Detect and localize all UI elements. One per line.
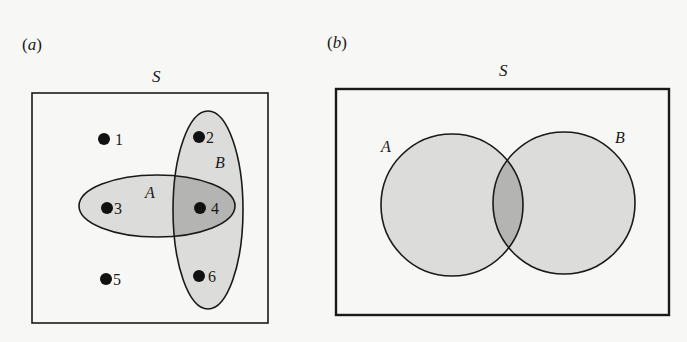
point-label: 3 [114, 200, 122, 217]
point-label: 2 [206, 129, 214, 146]
point-label: 1 [115, 131, 123, 148]
panel-a: (a) S A B 1 2 3 4 5 6 [22, 35, 268, 323]
panel-a-universe-label: S [152, 67, 161, 86]
point-label: 6 [208, 268, 216, 285]
venn-diagram-figure: (a) S A B 1 2 3 4 5 6 [0, 0, 687, 342]
set-b-label-b: B [615, 129, 625, 146]
point-dot [100, 273, 112, 285]
panel-b: (b) S A B [327, 33, 669, 315]
point-5: 5 [100, 271, 121, 288]
panel-b-universe-label: S [499, 61, 508, 80]
point-dot [98, 133, 110, 145]
point-dot [193, 131, 205, 143]
panel-b-label: (b) [327, 33, 347, 52]
point-dot [101, 202, 113, 214]
point-label: 4 [211, 200, 219, 217]
set-b-label-a: B [215, 154, 225, 171]
point-dot [194, 202, 206, 214]
point-1: 1 [98, 131, 123, 148]
point-dot [193, 270, 205, 282]
point-label: 5 [113, 271, 121, 288]
set-a-label-b: A [380, 138, 391, 155]
set-a-label-a: A [144, 184, 155, 201]
panel-a-label: (a) [22, 35, 42, 54]
